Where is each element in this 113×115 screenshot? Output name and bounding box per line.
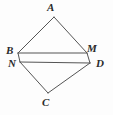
segment-AM <box>54 17 87 53</box>
segment-AB <box>18 17 54 53</box>
vertex-label-B: B <box>6 45 13 56</box>
segment-NC <box>20 62 48 93</box>
vertex-label-C: C <box>42 97 49 108</box>
vertex-label-M: M <box>87 43 97 54</box>
geometry-figure: A B N M D C <box>0 0 113 115</box>
segment-MD <box>87 53 90 63</box>
vertex-label-N: N <box>8 58 16 69</box>
segment-BN <box>18 53 20 62</box>
segment-CD <box>48 63 90 93</box>
segment-ND <box>20 62 90 63</box>
vertex-label-D: D <box>96 58 104 69</box>
vertex-label-A: A <box>47 2 54 13</box>
